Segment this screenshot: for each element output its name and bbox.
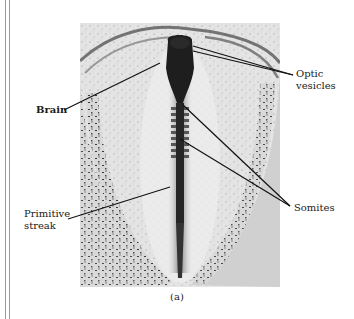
left-border-line-outer <box>5 0 6 319</box>
label-primitive-streak-line2: streak <box>24 220 70 232</box>
figure-caption: (a) <box>0 291 354 302</box>
label-somites: Somites <box>294 202 335 214</box>
left-border-line-inner <box>9 0 10 319</box>
label-primitive-streak: Primitive streak <box>24 208 70 232</box>
label-optic-vesicles-line1: Optic <box>296 68 336 80</box>
embryo-micrograph <box>80 23 280 287</box>
label-optic-vesicles-line2: vesicles <box>296 80 336 92</box>
label-brain: Brain <box>36 104 67 116</box>
label-primitive-streak-line1: Primitive <box>24 208 70 220</box>
label-optic-vesicles: Optic vesicles <box>296 68 336 92</box>
